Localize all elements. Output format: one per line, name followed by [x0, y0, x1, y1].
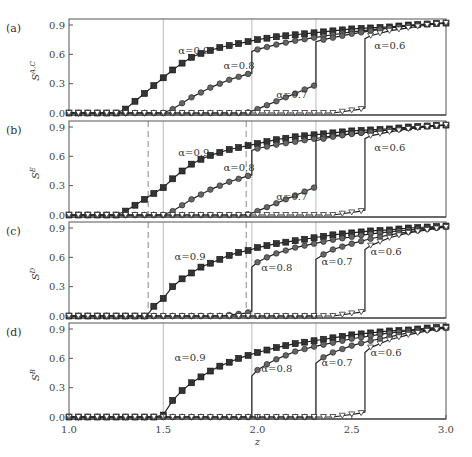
circle-marker	[349, 234, 355, 240]
circle-marker	[330, 237, 336, 243]
square-marker	[207, 368, 213, 374]
circle-marker	[340, 33, 346, 39]
circle-marker	[368, 236, 374, 242]
square-marker	[273, 241, 279, 247]
circle-marker	[245, 71, 251, 77]
circle-marker	[264, 144, 270, 150]
circle-marker	[358, 130, 364, 136]
circle-marker	[311, 185, 317, 191]
circle-marker	[226, 179, 232, 185]
square-marker	[198, 374, 204, 380]
circle-marker	[311, 35, 317, 41]
circle-marker	[255, 259, 261, 265]
circle-marker	[274, 357, 280, 363]
square-marker	[273, 34, 279, 40]
square-marker	[170, 397, 176, 403]
circle-marker	[321, 342, 327, 348]
square-marker	[189, 380, 195, 386]
series-annotation: α=0.8	[224, 60, 255, 71]
square-marker	[160, 185, 166, 191]
circle-marker	[358, 30, 364, 36]
square-marker	[179, 168, 185, 174]
square-marker	[255, 37, 261, 43]
circle-marker	[311, 344, 317, 350]
square-marker	[255, 245, 261, 251]
circle-marker	[302, 36, 308, 42]
circle-marker	[208, 187, 214, 193]
circle-marker	[245, 173, 251, 179]
y-tick-label: 0.0	[49, 412, 65, 423]
series-annotation: α=0.9	[178, 147, 209, 158]
circle-marker	[198, 90, 204, 96]
series-annotation: α=0.7	[276, 191, 307, 202]
square-marker	[207, 260, 213, 266]
circle-marker	[283, 353, 289, 359]
circle-marker	[349, 241, 355, 247]
square-marker	[217, 256, 223, 262]
circle-marker	[349, 336, 355, 342]
square-marker	[255, 349, 261, 355]
square-marker	[179, 276, 185, 282]
square-marker	[151, 190, 157, 196]
circle-marker	[340, 235, 346, 241]
x-tick-label: 2.0	[250, 424, 266, 435]
square-marker	[151, 83, 157, 89]
x-tick-label: 2.5	[344, 424, 360, 435]
x-tick-label: 1.5	[155, 424, 171, 435]
plot-frame	[69, 121, 446, 217]
square-marker	[292, 341, 298, 347]
circle-marker	[189, 95, 195, 101]
circle-marker	[226, 77, 232, 83]
square-marker	[179, 60, 185, 66]
panel-label: (c)	[6, 225, 21, 238]
circle-marker	[292, 245, 298, 251]
series-annotation: α=0.6	[371, 347, 402, 358]
circle-marker	[358, 238, 364, 244]
circle-marker	[349, 343, 355, 349]
y-tick-label: 0.6	[49, 49, 65, 60]
y-tick-label: 0.3	[49, 180, 65, 191]
y-tick-label: 0.9	[49, 122, 65, 133]
circle-marker	[264, 102, 270, 108]
circle-marker	[283, 140, 289, 146]
circle-marker	[255, 146, 261, 152]
circle-marker	[340, 338, 346, 344]
circle-marker	[340, 346, 346, 352]
square-marker	[217, 149, 223, 155]
square-marker	[320, 336, 326, 342]
square-marker	[302, 31, 308, 37]
square-marker	[311, 235, 317, 241]
series-annotation: α=0.7	[322, 357, 353, 368]
circle-marker	[377, 336, 383, 342]
square-marker	[236, 355, 242, 361]
series-line	[69, 125, 446, 215]
square-marker	[292, 32, 298, 38]
panel-d: 0.00.30.60.9(d)SBα=0.9α=0.8α=0.7α=0.6	[6, 323, 449, 423]
square-marker	[245, 39, 251, 45]
square-marker	[283, 33, 289, 39]
square-marker	[236, 41, 242, 47]
square-marker	[217, 363, 223, 369]
circle-marker	[340, 244, 346, 250]
square-marker	[311, 338, 317, 344]
square-marker	[160, 75, 166, 81]
square-marker	[226, 43, 232, 49]
circle-marker	[358, 233, 364, 239]
circle-marker	[189, 197, 195, 203]
panel-label: (a)	[6, 22, 21, 35]
square-marker	[132, 202, 138, 208]
circle-marker	[368, 28, 374, 34]
series-annotation: α=0.9	[175, 251, 206, 262]
circle-marker	[274, 42, 280, 48]
y-tick-label: 0.3	[49, 382, 65, 393]
circle-marker	[321, 239, 327, 245]
square-marker	[273, 345, 279, 351]
square-marker	[264, 347, 270, 353]
square-marker	[226, 252, 232, 258]
circle-marker	[179, 100, 185, 106]
series-annotation: α=0.6	[374, 142, 405, 153]
square-marker	[151, 303, 157, 309]
panel-c: 0.00.30.60.9(c)SDα=0.9α=0.8α=0.7α=0.6	[6, 222, 449, 322]
square-marker	[217, 44, 223, 50]
circle-marker	[377, 234, 383, 240]
